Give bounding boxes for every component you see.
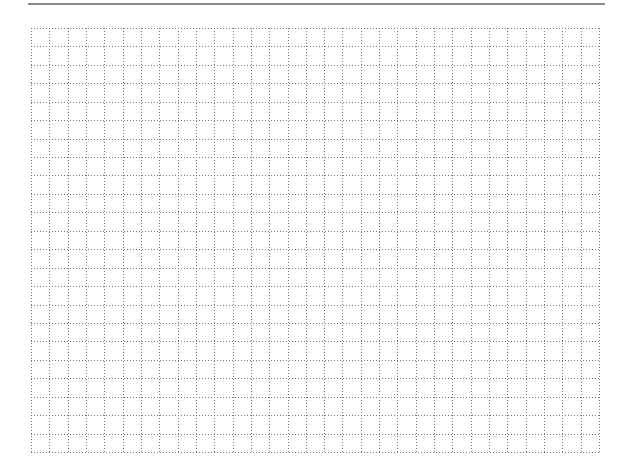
grid-horizontal-line: [31, 157, 600, 158]
grid-vertical-line: [86, 28, 87, 453]
grid-horizontal-line: [31, 231, 600, 232]
grid-vertical-line: [233, 28, 234, 453]
grid-vertical-line: [544, 28, 545, 453]
grid-vertical-line: [526, 28, 527, 453]
grid-horizontal-line: [31, 139, 600, 140]
grid-vertical-line: [489, 28, 490, 453]
grid-horizontal-line: [31, 323, 600, 324]
grid-horizontal-line: [31, 249, 600, 250]
grid-horizontal-line: [31, 378, 600, 379]
grid-vertical-line: [269, 28, 270, 453]
grid-horizontal-line: [31, 286, 600, 287]
grid-vertical-line: [141, 28, 142, 453]
grid-vertical-line: [434, 28, 435, 453]
grid-horizontal-line: [31, 434, 600, 435]
grid-horizontal-line: [31, 212, 600, 213]
grid-vertical-line: [471, 28, 472, 453]
grid-vertical-line: [49, 28, 50, 453]
grid-horizontal-line: [31, 341, 600, 342]
top-rule-divider: [28, 3, 605, 5]
grid-vertical-line: [324, 28, 325, 453]
grid-vertical-line: [452, 28, 453, 453]
grid-horizontal-line: [31, 83, 600, 84]
grid-vertical-line: [159, 28, 160, 453]
grid-vertical-line: [123, 28, 124, 453]
grid-horizontal-line: [31, 268, 600, 269]
grid-vertical-line: [507, 28, 508, 453]
dotted-grid: [31, 28, 600, 453]
grid-horizontal-line: [31, 415, 600, 416]
grid-vertical-line: [397, 28, 398, 453]
grid-vertical-line: [31, 28, 32, 453]
grid-horizontal-line: [31, 397, 600, 398]
grid-vertical-line: [562, 28, 563, 453]
grid-horizontal-line: [31, 120, 600, 121]
grid-horizontal-line: [31, 452, 600, 453]
grid-horizontal-line: [31, 102, 600, 103]
grid-vertical-line: [416, 28, 417, 453]
grid-vertical-line: [196, 28, 197, 453]
grid-vertical-line: [306, 28, 307, 453]
grid-vertical-line: [581, 28, 582, 453]
grid-vertical-line: [599, 28, 600, 453]
graph-paper-page: [0, 0, 632, 472]
grid-horizontal-line: [31, 305, 600, 306]
grid-vertical-line: [288, 28, 289, 453]
grid-horizontal-line: [31, 65, 600, 66]
grid-horizontal-line: [31, 194, 600, 195]
grid-horizontal-line: [31, 175, 600, 176]
grid-vertical-line: [251, 28, 252, 453]
grid-horizontal-line: [31, 360, 600, 361]
grid-horizontal-line: [31, 46, 600, 47]
grid-horizontal-line: [31, 28, 600, 29]
grid-vertical-line: [104, 28, 105, 453]
grid-vertical-line: [361, 28, 362, 453]
grid-vertical-line: [214, 28, 215, 453]
grid-vertical-line: [342, 28, 343, 453]
grid-vertical-line: [379, 28, 380, 453]
grid-vertical-line: [178, 28, 179, 453]
grid-vertical-line: [68, 28, 69, 453]
